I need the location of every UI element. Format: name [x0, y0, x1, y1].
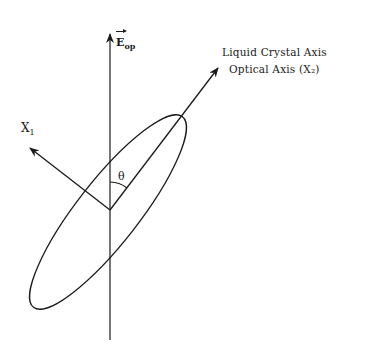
- index-ellipse: [9, 98, 207, 327]
- theta-label: θ: [118, 170, 125, 183]
- field-label: Eop: [116, 36, 135, 51]
- x1-label-subscript: 1: [30, 128, 35, 137]
- x1-label-main: X: [21, 121, 30, 135]
- vector-arrow-icon: [123, 29, 127, 33]
- optical-axis-label: Optical Axis (X₂): [229, 63, 320, 75]
- liquid-crystal-axis-label: Liquid Crystal Axis: [222, 46, 327, 58]
- x1-label: X1: [21, 121, 35, 137]
- field-label-subscript: op: [124, 41, 135, 51]
- x1-axis-line: [30, 148, 110, 210]
- optical-axis-line: [110, 68, 218, 210]
